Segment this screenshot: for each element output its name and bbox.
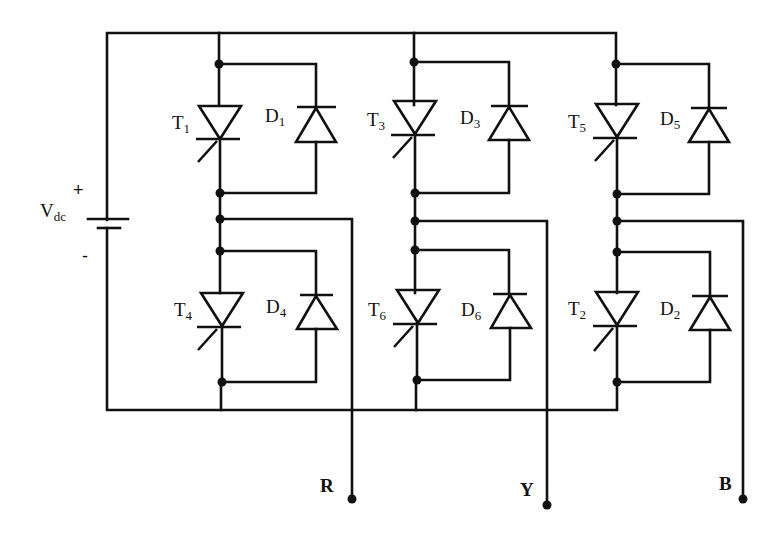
diode-loop <box>219 64 316 107</box>
diode-loop <box>617 252 710 296</box>
label-d6: D6 <box>461 299 482 323</box>
label-d4: D4 <box>266 296 287 320</box>
leg-2: T3 D3 Y T6 D6 <box>367 58 552 510</box>
junction-dot <box>411 217 420 226</box>
label-d2: D2 <box>660 298 680 322</box>
junction-dot <box>216 247 225 256</box>
diode-d4-icon <box>297 296 337 329</box>
label-t6: T6 <box>368 299 387 323</box>
junction-dot <box>413 376 422 385</box>
source-label: Vdc <box>40 200 66 224</box>
thyristor-t5-icon <box>596 104 638 137</box>
source-minus-sign: - <box>82 246 88 266</box>
gate-lead <box>595 140 614 161</box>
junction-dot <box>218 378 227 387</box>
output-label-b: B <box>719 473 732 494</box>
gate-lead <box>198 329 217 350</box>
gate-lead <box>198 141 217 162</box>
thyristor-t4-icon <box>201 293 243 326</box>
label-t1: T1 <box>172 112 190 136</box>
diode-loop <box>616 64 709 108</box>
diode-loop <box>222 329 316 382</box>
diode-d6-icon <box>491 295 531 328</box>
diode-loop <box>417 328 510 380</box>
junction-dot <box>613 217 622 226</box>
thyristor-t6-icon <box>397 290 439 323</box>
junction-dot <box>613 378 622 387</box>
circuit-svg: Vdc + - T1 D1 R T4 D <box>0 0 780 533</box>
output-terminal-b[interactable] <box>739 495 748 504</box>
leg-3: T5 D5 B T2 D2 <box>568 60 748 504</box>
junction-dot <box>612 60 621 69</box>
label-t2: T2 <box>568 298 586 322</box>
output-label-r: R <box>320 475 334 496</box>
label-d1: D1 <box>265 105 285 129</box>
junction-dot <box>215 60 224 69</box>
diode-d2-icon <box>690 297 730 330</box>
output-wire-y <box>415 221 547 505</box>
diode-loop <box>617 142 709 194</box>
diode-d1-icon <box>296 108 336 142</box>
label-t3: T3 <box>367 109 385 133</box>
diode-loop <box>220 251 316 295</box>
gate-lead <box>393 137 412 158</box>
label-d3: D3 <box>460 107 480 131</box>
junction-dot <box>613 248 622 257</box>
junction-dot <box>411 246 420 255</box>
gate-lead <box>394 326 413 347</box>
diode-loop <box>415 140 509 193</box>
dc-source: Vdc + - <box>40 180 128 266</box>
leg-1: T1 D1 R T4 D4 <box>172 60 357 504</box>
label-t4: T4 <box>174 299 193 323</box>
diode-loop <box>220 142 316 193</box>
junction-dot <box>216 215 225 224</box>
source-plus-sign: + <box>73 180 84 200</box>
output-terminal-y[interactable] <box>543 501 552 510</box>
junction-dot <box>410 58 419 67</box>
diode-loop <box>414 62 509 106</box>
diode-loop <box>617 330 710 382</box>
thyristor-t1-icon <box>199 106 241 139</box>
label-d5: D5 <box>660 108 680 132</box>
thyristor-t2-icon <box>596 292 638 325</box>
output-wire-r <box>220 219 352 498</box>
gate-lead <box>594 328 613 351</box>
circuit-diagram: Vdc + - T1 D1 R T4 D <box>0 0 780 533</box>
diode-d5-icon <box>689 109 729 142</box>
output-wire-b <box>617 221 743 499</box>
label-t5: T5 <box>568 111 586 135</box>
output-terminal-r[interactable] <box>348 495 357 504</box>
diode-loop <box>415 250 509 294</box>
diode-d3-icon <box>489 107 529 140</box>
output-label-y: Y <box>520 479 534 500</box>
